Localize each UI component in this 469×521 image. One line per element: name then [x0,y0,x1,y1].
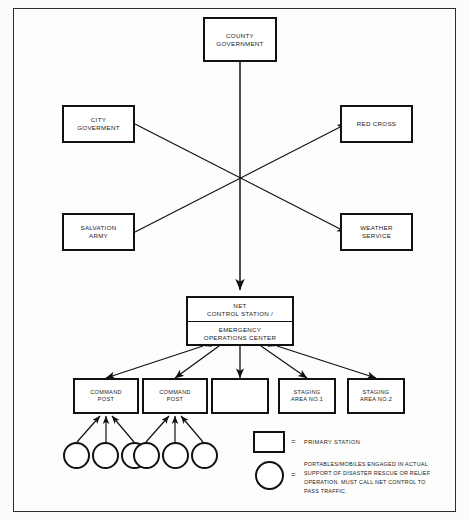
node-city-government-line1: CITY [91,116,106,124]
node-staging-area-1-line2: AREA NO.1 [291,396,323,403]
portable-station-6[interactable] [191,442,218,469]
node-county-government[interactable]: COUNTY GOVERNMENT [203,17,277,62]
legend-primary-station-label: PRIMARY STATION [304,438,360,447]
node-weather-service-line2: SERVICE [362,232,391,240]
node-salvation-army[interactable]: SALVATION ARMY [62,213,135,251]
node-salvation-army-line1: SALVATION [80,224,116,232]
diagram-frame [13,8,456,512]
node-net-control-line1: NET [233,302,246,310]
portable-station-1[interactable] [63,442,90,469]
legend-equals-2: = [291,470,296,479]
node-net-control-line3: EMERGENCY [219,326,262,334]
legend-portable-label-line2: SUPPORT OF DISASTER RESCUE OR RELIEF [304,469,430,478]
legend-portable-label-line1: PORTABLES/MOBILES ENGAGED IN ACTUAL [304,460,428,469]
node-net-control-line4: OPERATIONS CENTER [204,334,276,342]
portable-station-2[interactable] [92,442,119,469]
node-staging-area-2-line2: AREA NO.2 [360,396,392,403]
node-salvation-army-line2: ARMY [89,232,108,240]
node-command-post-1-line1: COMMAND [90,389,122,396]
portable-station-5[interactable] [162,442,189,469]
node-unlabeled-station[interactable] [211,378,269,414]
legend-portable-label-line3: OPERATION. MUST CALL NET CONTROL TO [304,478,426,487]
node-command-post-2-line2: POST [167,396,183,403]
node-staging-area-2[interactable]: STAGING AREA NO.2 [347,378,405,414]
legend-primary-station-symbol [253,431,285,453]
node-staging-area-1[interactable]: STAGING AREA NO.1 [278,378,336,414]
portable-station-4[interactable] [133,442,160,469]
node-weather-service[interactable]: WEATHER SERVICE [340,213,413,251]
diagram-page: COUNTY GOVERNMENT CITY GOVERMENT RED CRO… [0,0,469,521]
legend-equals-1: = [291,437,296,446]
node-county-government-line1: COUNTY [226,32,254,40]
node-weather-service-line1: WEATHER [360,224,393,232]
node-city-government[interactable]: CITY GOVERMENT [62,105,135,143]
legend-portable-symbol [255,461,284,490]
node-command-post-2-line1: COMMAND [159,389,191,396]
node-command-post-1[interactable]: COMMAND POST [73,378,139,414]
node-county-government-line2: GOVERNMENT [216,40,263,48]
node-command-post-1-line2: POST [98,396,114,403]
node-net-control-line2: CONTROL STATION / [207,310,273,318]
legend-portable-label-line4: PASS TRAFFIC. [304,487,347,496]
node-command-post-2[interactable]: COMMAND POST [142,378,208,414]
node-city-government-line2: GOVERMENT [77,124,120,132]
node-staging-area-2-line1: STAGING [363,389,390,396]
node-net-control-station[interactable]: NET CONTROL STATION / EMERGENCY OPERATIO… [186,296,294,346]
node-net-control-divider [188,321,292,322]
node-red-cross-line1: RED CROSS [357,120,397,128]
node-staging-area-1-line1: STAGING [294,389,321,396]
node-red-cross[interactable]: RED CROSS [340,105,413,143]
